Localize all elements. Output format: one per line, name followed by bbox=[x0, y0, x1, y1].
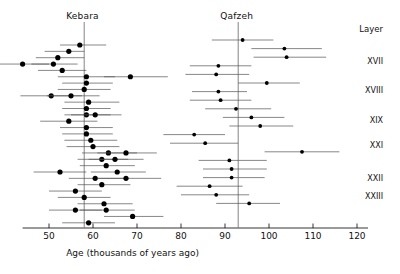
data-point bbox=[234, 107, 238, 111]
data-point bbox=[217, 64, 221, 68]
data-point bbox=[112, 157, 117, 162]
scatter-chart-figure: Kebara Qafzeh Layer XVIIXVIIIXIXXXIXXIIX… bbox=[0, 0, 400, 274]
kebara-panel-title: Kebara bbox=[66, 11, 99, 21]
data-point bbox=[77, 42, 82, 47]
x-axis-tick-label: 80 bbox=[175, 231, 186, 241]
data-point bbox=[203, 141, 207, 145]
data-point bbox=[84, 106, 89, 111]
data-point bbox=[86, 220, 91, 225]
data-point bbox=[82, 195, 87, 200]
data-point bbox=[104, 163, 109, 168]
data-point bbox=[123, 176, 128, 181]
data-point bbox=[208, 184, 212, 188]
data-point bbox=[84, 74, 89, 79]
data-point bbox=[51, 61, 56, 66]
data-point bbox=[128, 74, 133, 79]
plot-area bbox=[0, 0, 400, 274]
data-point bbox=[73, 208, 78, 213]
data-point bbox=[115, 169, 120, 174]
data-point bbox=[130, 214, 135, 219]
data-point bbox=[283, 47, 287, 51]
data-point bbox=[217, 90, 221, 94]
data-point bbox=[214, 73, 218, 77]
data-point bbox=[247, 202, 251, 206]
data-point bbox=[82, 87, 87, 92]
data-point bbox=[84, 81, 89, 86]
data-point bbox=[258, 124, 262, 128]
data-point bbox=[192, 133, 196, 137]
layer-label: XXI bbox=[370, 141, 383, 150]
data-point bbox=[84, 125, 89, 130]
x-axis-tick-label: 60 bbox=[87, 231, 98, 241]
data-point bbox=[66, 119, 71, 124]
data-point bbox=[241, 38, 245, 42]
data-point bbox=[66, 49, 71, 54]
x-axis-tick-label: 100 bbox=[260, 231, 277, 241]
layer-label: XXIII bbox=[365, 192, 383, 201]
data-point bbox=[90, 144, 95, 149]
data-point bbox=[101, 201, 106, 206]
x-axis-tick-label: 110 bbox=[304, 231, 321, 241]
x-axis-tick-label: 70 bbox=[131, 231, 142, 241]
x-axis-tick-label: 90 bbox=[219, 231, 230, 241]
data-point bbox=[265, 81, 269, 85]
data-point bbox=[93, 176, 98, 181]
x-axis-tick-label: 120 bbox=[348, 231, 365, 241]
data-point bbox=[73, 188, 78, 193]
data-point bbox=[300, 150, 304, 154]
x-axis-title: Age (thousands of years ago) bbox=[66, 248, 199, 258]
layer-label: XXII bbox=[367, 174, 383, 183]
data-point bbox=[285, 55, 289, 59]
data-point bbox=[86, 100, 91, 105]
layer-column-header: Layer bbox=[359, 24, 383, 34]
data-point bbox=[20, 61, 25, 66]
data-point bbox=[88, 138, 93, 143]
data-point bbox=[93, 112, 98, 117]
data-point bbox=[230, 167, 234, 171]
data-point bbox=[84, 131, 89, 136]
qafzeh-panel-title: Qafzeh bbox=[220, 11, 253, 21]
data-point bbox=[230, 176, 234, 180]
series-qafzeh bbox=[163, 38, 339, 205]
layer-label: XVIII bbox=[365, 86, 383, 95]
data-point bbox=[250, 116, 254, 120]
data-point bbox=[55, 55, 60, 60]
data-point bbox=[104, 208, 109, 213]
data-point bbox=[214, 193, 218, 197]
x-axis-tick-label: 50 bbox=[43, 231, 54, 241]
layer-label: XVII bbox=[367, 57, 383, 66]
data-point bbox=[123, 150, 128, 155]
layer-label: XIX bbox=[370, 116, 383, 125]
data-point bbox=[228, 159, 232, 163]
data-point bbox=[68, 93, 73, 98]
data-point bbox=[57, 169, 62, 174]
data-point bbox=[99, 182, 104, 187]
data-point bbox=[219, 98, 223, 102]
data-point bbox=[60, 68, 65, 73]
